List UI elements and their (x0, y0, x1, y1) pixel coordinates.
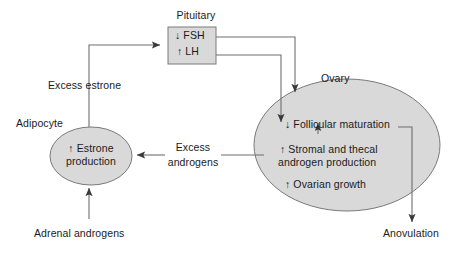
ovary-line-stromal-thecal: ↑ Stromal and thecal (280, 143, 378, 156)
terminal-anovulation: Anovulation (383, 227, 439, 240)
terminal-adrenal-androgens: Adrenal androgens (34, 227, 124, 240)
edge-label-excess-androgens-line-2: androgens (160, 156, 226, 169)
ovary-line-follicular-maturation: ↓ Follicular maturation (285, 118, 390, 131)
ovary-line-ovarian-growth: ↑ Ovarian growth (285, 178, 366, 191)
ovary-caption: Ovary (321, 72, 350, 85)
adipocyte-line-1: ↑ Estrone (54, 142, 128, 155)
pituitary-fsh-text: ↓ FSH (175, 29, 205, 42)
pituitary-caption: Pituitary (163, 9, 229, 22)
edge-label-excess-estrone: Excess estrone (48, 79, 121, 92)
pituitary-lh-text: ↑ LH (177, 45, 199, 58)
adipocyte-line-2: production (54, 155, 128, 168)
edge-label-excess-androgens-line-1: Excess (167, 141, 219, 154)
adipocyte-caption: Adipocyte (16, 117, 63, 130)
edge-fsh-to-ovary (216, 37, 295, 92)
ovary-line-androgen-production: androgen production (278, 156, 376, 169)
pcos-pathophysiology-diagram: Pituitary ↓ FSH ↑ LH Excess estrone Adip… (0, 0, 456, 255)
